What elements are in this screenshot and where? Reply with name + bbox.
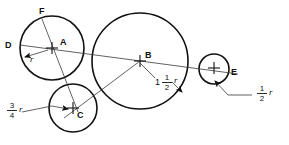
dimension-b-numerator: 1 [165,73,170,82]
dimension-b-whole: 1 [155,77,160,87]
leader-line-b [140,63,155,78]
diagram-canvas: D F A B C E r 1 1 2 r 3 4 r 1 2 r [0,0,289,145]
dimension-c-denominator: 4 [10,111,15,120]
construction-line-f-to-c [42,19,78,112]
dimension-e-denominator: 2 [260,94,265,103]
leader-line-c [22,106,52,112]
dimension-e-numerator: 1 [260,84,265,93]
radius-arrow-e [215,81,228,95]
label-center-a: A [60,37,67,47]
dimension-b-variable: r [174,75,178,85]
dimension-label-radius-a: r [30,54,34,64]
dimension-c-variable: r [19,104,23,114]
dimension-e-variable: r [269,87,273,97]
label-center-c: C [77,110,84,120]
dimension-b-denominator: 2 [165,83,170,92]
label-center-b: B [145,50,152,60]
label-point-e: E [231,67,237,77]
dimension-c-numerator: 3 [10,101,15,110]
label-point-f: F [39,6,45,16]
label-point-d: D [5,40,12,50]
geometry-diagram: D F A B C E r 1 1 2 r 3 4 r 1 2 r [0,0,289,145]
radius-arrow-a [25,50,48,57]
radius-arrow-c [52,106,68,109]
